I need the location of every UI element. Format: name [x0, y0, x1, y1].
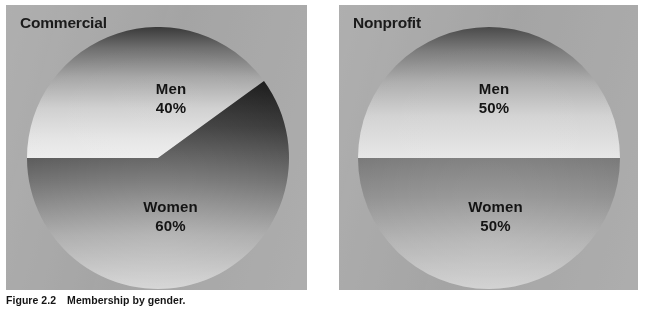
pie-label-women-commercial-value: 60% — [118, 216, 223, 235]
panel-title-commercial: Commercial — [20, 14, 107, 32]
figure-caption: Figure 2.2Membership by gender. — [6, 294, 185, 306]
pie-label-men-commercial-value: 40% — [126, 98, 216, 117]
figure-caption-text: Membership by gender. — [67, 294, 185, 306]
chart-panel-nonprofit: Nonprofit — [339, 5, 638, 290]
pie-label-women-commercial: Women 60% — [118, 197, 223, 235]
panel-title-nonprofit: Nonprofit — [353, 14, 421, 32]
pie-label-men-commercial: Men 40% — [126, 79, 216, 117]
pie-label-women-nonprofit-name: Women — [468, 198, 522, 215]
pie-label-men-nonprofit: Men 50% — [449, 79, 539, 117]
pie-chart-commercial — [27, 27, 289, 289]
pie-label-women-commercial-name: Women — [143, 198, 197, 215]
pie-label-men-commercial-name: Men — [156, 80, 186, 97]
pie-label-women-nonprofit-value: 50% — [443, 216, 548, 235]
pie-sheen-commercial — [27, 27, 289, 289]
pie-chart-nonprofit — [358, 27, 620, 289]
pie-label-women-nonprofit: Women 50% — [443, 197, 548, 235]
pie-label-men-nonprofit-name: Men — [479, 80, 509, 97]
pie-chart-nonprofit-svg — [358, 27, 620, 289]
pie-sheen-nonprofit — [358, 27, 620, 289]
figure-container: Commercial — [0, 0, 645, 313]
chart-panel-commercial: Commercial — [6, 5, 307, 290]
pie-label-men-nonprofit-value: 50% — [449, 98, 539, 117]
pie-chart-commercial-svg — [27, 27, 289, 289]
figure-number: Figure 2.2 — [6, 294, 56, 306]
